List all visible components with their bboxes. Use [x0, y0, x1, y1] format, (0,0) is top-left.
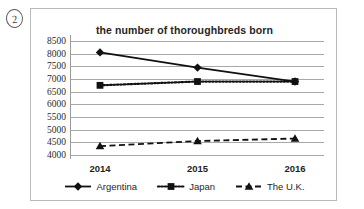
- data-point-marker: [292, 78, 299, 85]
- legend-swatch-square-icon: [157, 181, 185, 192]
- y-axis-tick-label: 5000: [47, 125, 66, 135]
- chart-screenshot: 2 the number of thoroughbreds born 40004…: [0, 0, 364, 209]
- y-axis-tick-label: 7000: [47, 74, 66, 84]
- y-axis-tick-label: 6000: [47, 99, 66, 109]
- series-plot: [71, 41, 324, 155]
- legend-label: The U.K.: [267, 181, 305, 192]
- data-point-marker: [74, 182, 82, 190]
- legend-label: Argentina: [96, 181, 137, 192]
- legend-item-the-u-k[interactable]: The U.K.: [235, 181, 305, 192]
- legend-swatch-triangle-icon: [235, 181, 263, 192]
- x-axis-tick-label: 2015: [187, 163, 208, 174]
- circled-number-icon: 2: [5, 8, 24, 29]
- plot-area: 4000450050005500600065007000750080008500…: [71, 41, 324, 155]
- data-point-marker: [194, 78, 201, 85]
- gridline: [71, 155, 324, 156]
- y-axis-tick-label: 8500: [47, 36, 66, 46]
- y-axis-tick-label: 6500: [47, 87, 66, 97]
- legend-item-japan[interactable]: Japan: [157, 181, 215, 192]
- data-point-marker: [97, 82, 104, 89]
- chart-title: the number of thoroughbreds born: [31, 24, 338, 36]
- legend-swatch-diamond-icon: [64, 181, 92, 192]
- y-axis-tick-label: 4500: [47, 137, 66, 147]
- legend-label: Japan: [189, 181, 215, 192]
- data-point-marker: [193, 63, 201, 71]
- x-axis-tick-label: 2014: [89, 163, 110, 174]
- legend-item-argentina[interactable]: Argentina: [64, 181, 137, 192]
- y-axis-tick-label: 8000: [47, 49, 66, 59]
- data-point-marker: [168, 183, 175, 190]
- chart-legend: ArgentinaJapanThe U.K.: [31, 181, 338, 192]
- y-axis-tick-label: 5500: [47, 112, 66, 122]
- y-axis-tick-label: 7500: [47, 61, 66, 71]
- x-axis-tick-label: 2016: [284, 163, 305, 174]
- y-axis-tick-label: 4000: [47, 150, 66, 160]
- chart-frame: the number of thoroughbreds born 4000450…: [30, 8, 337, 201]
- data-point-marker: [96, 48, 104, 56]
